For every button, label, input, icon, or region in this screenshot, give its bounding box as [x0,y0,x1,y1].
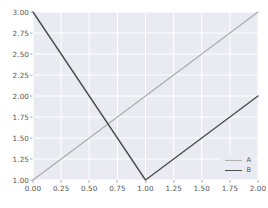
chart-legend[interactable]: AB [221,154,255,177]
x-tick-label: 0.50 [81,184,97,193]
y-tick-label: 3.00 [13,8,29,17]
x-tick-label: 1.25 [165,184,181,193]
x-tick-mark [258,180,259,183]
x-tick-mark [61,180,62,183]
x-tick-label: 1.75 [222,184,238,193]
legend-line-swatch [225,160,242,161]
x-axis-tick-labels: 0.000.250.500.751.001.251.501.752.00 [33,184,258,198]
x-tick-mark [33,180,34,183]
x-tick-label: 2.00 [250,184,266,193]
x-tick-label: 0.00 [25,184,41,193]
y-tick-label: 1.25 [13,155,29,164]
x-tick-mark [173,180,174,183]
legend-label: A [246,157,251,164]
x-tick-mark [89,180,90,183]
y-axis-tick-labels: 1.001.251.501.752.002.252.502.753.00 [0,12,29,180]
y-tick-label: 1.50 [13,134,29,143]
x-tick-label: 1.00 [137,184,153,193]
y-tick-label: 1.75 [13,113,29,122]
y-tick-label: 2.25 [13,71,29,80]
legend-line-swatch [225,170,242,171]
x-tick-label: 0.75 [109,184,125,193]
figure-canvas: 1.001.251.501.752.002.252.502.753.00 AB … [0,0,268,208]
legend-entry[interactable]: A [225,157,251,164]
x-tick-mark [229,180,230,183]
x-tick-mark [201,180,202,183]
x-tick-label: 0.25 [53,184,69,193]
legend-entry[interactable]: B [225,167,251,174]
x-tick-label: 1.50 [194,184,210,193]
y-tick-label: 2.00 [13,92,29,101]
y-tick-label: 2.75 [13,29,29,38]
x-axis-tick-marks [33,180,258,183]
x-tick-mark [145,180,146,183]
x-tick-mark [117,180,118,183]
legend-label: B [246,167,251,174]
plot-axes: AB [33,12,258,180]
y-tick-label: 2.50 [13,50,29,59]
